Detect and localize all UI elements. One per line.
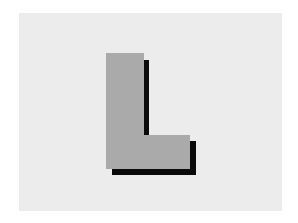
letter-l-horizontal-bar [106,135,190,169]
canvas-panel [19,13,282,211]
letter-l-shadow-horizontal [112,169,196,175]
letter-l-shadow-right [190,141,196,175]
letter-l-shadow-vertical [144,60,149,139]
